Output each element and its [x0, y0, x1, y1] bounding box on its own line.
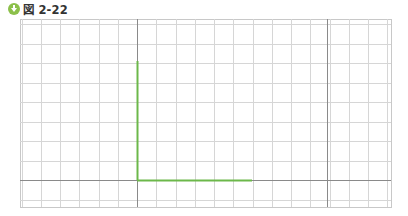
grid-border: [21, 20, 392, 208]
green-l-shape: [137, 61, 252, 181]
grid-lines: [20, 19, 392, 208]
axes: [20, 19, 391, 207]
coordinate-grid: [0, 0, 408, 216]
